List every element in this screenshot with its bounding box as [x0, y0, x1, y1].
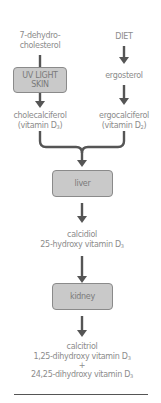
calcidiol-label: calcidiol 25-hydroxy vitamin D3 [10, 230, 154, 250]
ergosterol-label: ergosterol [94, 71, 154, 81]
cholecalciferol-name: cholecalciferol [4, 111, 76, 121]
ergocalciferol-name: ergocalciferol [88, 111, 160, 121]
plus-sign: + [4, 362, 160, 370]
calcitriol-line3: 24,25-dihydroxy vitamin D3 [4, 370, 160, 380]
diet-label: DIET [104, 32, 144, 42]
ergocalciferol-label: ergocalciferol (vitamin D2) [88, 111, 160, 131]
kidney-box: kidney [52, 283, 113, 310]
calcitriol-label: calcitriol 1,25-dihydroxy vitamin D3 + 2… [4, 342, 160, 380]
liver-box: liver [52, 170, 113, 197]
calcidiol-name: calcidiol [10, 230, 154, 240]
calcitriol-name: calcitriol [4, 342, 160, 352]
seven-dehydro-line1: 7-dehydro- [8, 31, 72, 41]
uv-box-line2: SKIN [22, 80, 57, 89]
calcidiol-full: 25-hydroxy vitamin D3 [10, 240, 154, 250]
cholecalciferol-label: cholecalciferol (vitamin D3) [4, 111, 76, 131]
uv-light-skin-box: UV LIGHT SKIN [13, 67, 67, 93]
bottom-divider [14, 394, 148, 395]
cholecalciferol-vitamin: (vitamin D3) [4, 121, 76, 131]
ergocalciferol-vitamin: (vitamin D2) [88, 121, 160, 131]
seven-dehydrocholesterol-label: 7-dehydro- cholesterol [8, 31, 72, 51]
seven-dehydro-line2: cholesterol [8, 41, 72, 51]
uv-box-line1: UV LIGHT [22, 71, 57, 80]
